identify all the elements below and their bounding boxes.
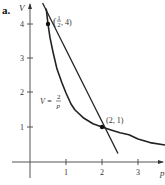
y-tick-label-2: 2 — [20, 88, 24, 97]
equation-label: V = 2 p — [40, 93, 61, 110]
point-half-4-label: ( 1 2 , 4) — [53, 15, 72, 29]
x-tick-label-2: 2 — [100, 168, 104, 177]
y-tick-label-4: 4 — [20, 20, 24, 29]
v-axis-arrow-icon — [28, 3, 32, 9]
svg-text:(: ( — [53, 16, 57, 28]
svg-text:p: p — [56, 102, 61, 110]
svg-text:V =: V = — [40, 97, 52, 106]
x-tick-label-1: 1 — [64, 168, 68, 177]
point-2-1-label: (2, 1) — [106, 116, 124, 125]
chart: a. V p 4 3 2 1 1 2 3 ( 1 2 — [0, 0, 165, 185]
axes — [12, 3, 164, 178]
p-axis-label: p — [159, 168, 165, 178]
point-half-4 — [46, 22, 50, 26]
v-axis-label: V — [19, 3, 26, 13]
svg-text:2: 2 — [57, 93, 61, 101]
panel-label: a. — [2, 4, 11, 16]
x-tick-label-3: 3 — [136, 168, 140, 177]
y-tick-label-3: 3 — [20, 54, 24, 63]
y-tick-label-1: 1 — [20, 123, 24, 132]
p-axis-arrow-icon — [158, 160, 164, 164]
y-ticks: 4 3 2 1 — [20, 20, 33, 132]
svg-text:, 4): , 4) — [61, 18, 72, 27]
point-2-1 — [100, 125, 104, 129]
